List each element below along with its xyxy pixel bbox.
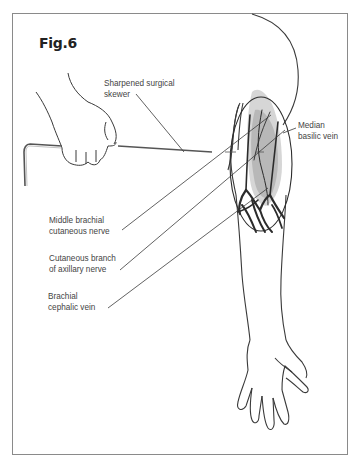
label-line: Brachial [48, 292, 78, 301]
label-line: Cutaneous branch [49, 254, 116, 263]
leader-middle-brachial [122, 115, 271, 230]
leader-skewer [136, 94, 184, 152]
skewer [24, 144, 264, 186]
label-line: of axillary nerve [49, 265, 106, 274]
label-line: cephalic vein [48, 303, 95, 312]
figure-title: Fig.6 [39, 35, 77, 51]
label-line: Median [298, 121, 325, 130]
label-middle-brachial-cutaneous-nerve: Middle brachialcutaneous nerve [49, 216, 110, 237]
label-cutaneous-branch-axillary-nerve: Cutaneous branchof axillary nerve [49, 254, 116, 275]
label-line: Sharpened surgical [104, 79, 175, 88]
label-brachial-cephalic-vein: Brachialcephalic vein [48, 292, 95, 313]
label-skewer: Sharpened surgicalskewer [104, 79, 175, 100]
label-line: Middle brachial [49, 216, 104, 225]
label-line: skewer [104, 90, 130, 99]
label-median-basilic-vein: Medianbasilic vein [298, 121, 338, 142]
label-line: cutaneous nerve [49, 227, 110, 236]
arm-outline [228, 14, 308, 430]
label-line: basilic vein [298, 132, 338, 141]
